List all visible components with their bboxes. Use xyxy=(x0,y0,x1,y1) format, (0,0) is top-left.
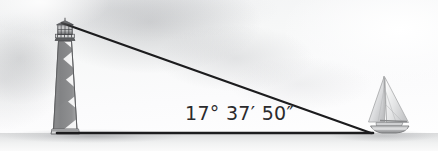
angle-measure-label: 17° 37′ 50″ xyxy=(185,104,294,123)
sailboat xyxy=(356,72,420,134)
sailboat-deck xyxy=(376,123,403,127)
sailboat-boom xyxy=(380,121,407,122)
figure-canvas: 17° 37′ 50″ xyxy=(0,0,438,151)
sailboat-graphic xyxy=(356,72,420,134)
